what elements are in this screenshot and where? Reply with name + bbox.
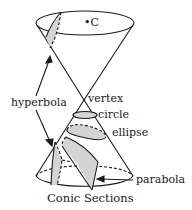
parabola-arrow <box>97 176 133 182</box>
vertex-label: vertex <box>88 93 123 105</box>
diagram-title: Conic Sections <box>47 192 134 204</box>
upper-hyperbola-section <box>46 12 61 48</box>
center-label: •C <box>84 17 99 29</box>
hyperbola-arrow-down <box>36 110 53 146</box>
hyperbola-arrow-up <box>36 56 52 96</box>
circle-section <box>73 112 97 119</box>
ellipse-section <box>67 125 106 140</box>
parabola-label: parabola <box>136 174 185 186</box>
upper-cone-left-edge <box>37 25 84 100</box>
upper-cone-right-edge <box>84 25 133 100</box>
circle-label: circle <box>98 109 129 121</box>
hyperbola-label: hyperbola <box>11 97 67 109</box>
ellipse-label: ellipse <box>112 127 148 139</box>
